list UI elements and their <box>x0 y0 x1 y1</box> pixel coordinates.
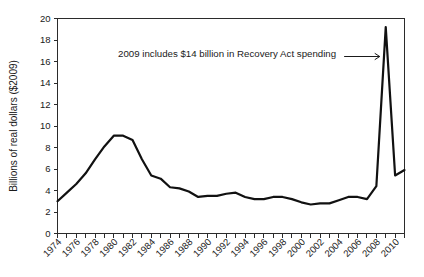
x-tick-label: 1976 <box>59 236 82 259</box>
y-tick-label: 6 <box>45 163 50 174</box>
x-tick-label: 1982 <box>116 236 139 259</box>
y-tick-label: 8 <box>45 142 50 153</box>
x-tick-label: 2002 <box>303 236 326 259</box>
x-tick-label: 2000 <box>285 236 308 259</box>
y-tick-label: 10 <box>40 120 51 131</box>
x-tick-label: 1998 <box>266 236 289 259</box>
y-tick-label: 4 <box>45 185 50 196</box>
line-chart: 02468101214161820 1974197619781980198219… <box>0 0 424 277</box>
x-tick-label: 2006 <box>341 236 364 259</box>
x-tick-label: 1996 <box>247 236 270 259</box>
y-tick-label: 12 <box>40 99 51 110</box>
y-tick-label: 18 <box>40 34 51 45</box>
y-tick-label: 14 <box>40 77 51 88</box>
annotation-text: 2009 includes $14 billion in Recovery Ac… <box>118 48 336 59</box>
x-tick-label: 1980 <box>97 236 120 259</box>
x-tick-label: 1984 <box>134 236 157 259</box>
y-axis: 02468101214161820 <box>40 13 58 239</box>
x-tick-label: 1990 <box>191 236 214 259</box>
y-tick-label: 2 <box>45 206 50 217</box>
y-tick-label: 0 <box>45 228 50 239</box>
y-tick-label: 16 <box>40 56 51 67</box>
x-tick-label: 2010 <box>378 236 401 259</box>
x-axis: 1974197619781980198219841986198819901992… <box>41 234 405 259</box>
x-tick-label: 1978 <box>78 236 101 259</box>
annotation-group: 2009 includes $14 billion in Recovery Ac… <box>118 48 380 60</box>
x-tick-label: 1992 <box>209 236 232 259</box>
x-tick-label: 2008 <box>360 236 383 259</box>
x-tick-label: 1974 <box>41 236 64 259</box>
y-tick-label: 20 <box>40 13 51 24</box>
x-tick-label: 1988 <box>172 236 195 259</box>
x-tick-label: 1994 <box>228 236 251 259</box>
x-tick-label: 2004 <box>322 236 345 259</box>
x-tick-label: 1986 <box>153 236 176 259</box>
y-axis-title: Billions of real dollars ($2009) <box>8 60 19 192</box>
chart-container: 02468101214161820 1974197619781980198219… <box>0 0 424 277</box>
